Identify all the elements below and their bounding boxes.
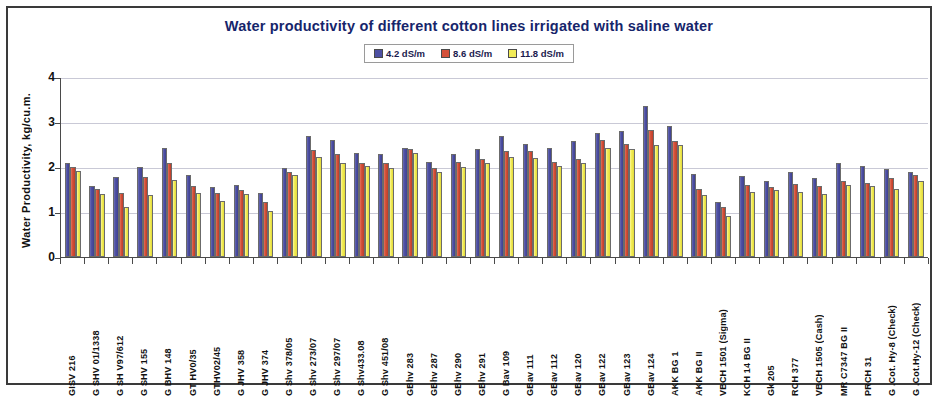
x-axis-label-text: GBav 120 [573, 266, 583, 396]
bar-group[interactable] [422, 78, 446, 257]
bar[interactable] [148, 195, 153, 257]
bar[interactable] [533, 158, 538, 257]
bar[interactable] [678, 145, 683, 257]
bar[interactable] [340, 163, 345, 258]
bar[interactable] [894, 189, 899, 257]
x-axis-label: GBhv 287 [422, 266, 446, 396]
bar[interactable] [798, 192, 803, 257]
bar-group[interactable] [856, 78, 880, 257]
bar[interactable] [702, 195, 707, 257]
x-axis-label: Gk 205 [759, 266, 783, 396]
bar-group[interactable] [543, 78, 567, 257]
bar-group[interactable] [711, 78, 735, 257]
bar[interactable] [268, 211, 273, 257]
bar-group[interactable] [663, 78, 687, 257]
bar[interactable] [750, 192, 755, 257]
bar[interactable] [124, 207, 129, 257]
bar-group[interactable] [157, 78, 181, 257]
bar-group[interactable] [591, 78, 615, 257]
bar-group[interactable] [350, 78, 374, 257]
y-tick [55, 213, 60, 214]
x-tick [132, 258, 133, 264]
y-tick [55, 78, 60, 79]
bar[interactable] [244, 194, 249, 257]
x-axis-label: GISV 216 [60, 266, 84, 396]
x-axis-label-text: GBav 111 [525, 266, 535, 396]
bar[interactable] [654, 145, 659, 257]
bar[interactable] [100, 194, 105, 257]
x-tick [277, 258, 278, 264]
bar[interactable] [389, 168, 394, 257]
bar-group[interactable] [446, 78, 470, 257]
bar[interactable] [172, 180, 177, 257]
bar[interactable] [413, 153, 418, 257]
bar-group[interactable] [687, 78, 711, 257]
x-axis-label-text: VBCH 1501 (Sigma) [718, 266, 728, 396]
bar-group[interactable] [783, 78, 807, 257]
bar[interactable] [846, 185, 851, 257]
x-tick [639, 258, 640, 264]
bar[interactable] [76, 171, 81, 257]
x-axis-label-text: AKK BG II [694, 266, 704, 396]
bar-group[interactable] [880, 78, 904, 257]
bar-group[interactable] [398, 78, 422, 257]
bar[interactable] [605, 148, 610, 257]
bar[interactable] [509, 157, 514, 257]
x-tick [590, 258, 591, 264]
legend-swatch-1 [441, 49, 450, 58]
bar-group[interactable] [85, 78, 109, 257]
bar-group[interactable] [518, 78, 542, 257]
bar-group[interactable] [326, 78, 350, 257]
bar-group[interactable] [278, 78, 302, 257]
x-axis-label-text: G Shv 378/05 [284, 266, 294, 396]
bar[interactable] [485, 163, 490, 257]
x-axis-label-text: G SHV 01/1338 [91, 266, 101, 396]
x-axis-label: G Bav 109 [494, 266, 518, 396]
bar[interactable] [822, 194, 827, 257]
bar-group[interactable] [567, 78, 591, 257]
x-axis-label: GBav 124 [639, 266, 663, 396]
bar-group[interactable] [302, 78, 326, 257]
bar[interactable] [726, 216, 731, 257]
bar-group[interactable] [470, 78, 494, 257]
bar[interactable] [292, 175, 297, 257]
x-axis-label-text: MR C7347 BG II [839, 266, 849, 396]
bar[interactable] [918, 181, 923, 257]
bar-group[interactable] [494, 78, 518, 257]
bar-group[interactable] [832, 78, 856, 257]
x-axis-label: G Shv 297/07 [325, 266, 349, 396]
bar[interactable] [581, 163, 586, 257]
x-axis-label-text: GBhv 290 [453, 266, 463, 396]
x-axis-label: G SH V97/612 [108, 266, 132, 396]
bar-group[interactable] [230, 78, 254, 257]
bar[interactable] [774, 190, 779, 257]
bar-group[interactable] [181, 78, 205, 257]
bar-group[interactable] [759, 78, 783, 257]
bar-group[interactable] [254, 78, 278, 257]
bar-group[interactable] [374, 78, 398, 257]
bar-group[interactable] [615, 78, 639, 257]
bar-group[interactable] [133, 78, 157, 257]
bar[interactable] [557, 166, 562, 257]
bar[interactable] [220, 201, 225, 257]
bar[interactable] [629, 149, 634, 257]
legend-label-2: 11.8 dS/m [520, 48, 564, 59]
bar-group[interactable] [109, 78, 133, 257]
bar-group[interactable] [735, 78, 759, 257]
legend-label-1: 8.6 dS/m [453, 48, 492, 59]
x-axis-label-text: GBhv 291 [477, 266, 487, 396]
bar[interactable] [870, 186, 875, 257]
bar[interactable] [196, 193, 201, 257]
bar[interactable] [316, 157, 321, 257]
x-axis-label-text: G JHV 358 [236, 266, 246, 396]
x-axis-label: GBav 123 [615, 266, 639, 396]
bar[interactable] [461, 167, 466, 257]
bar-group[interactable] [639, 78, 663, 257]
bar-group[interactable] [205, 78, 229, 257]
bar-group[interactable] [61, 78, 85, 257]
bar-group[interactable] [904, 78, 928, 257]
x-tick [422, 258, 423, 264]
bar[interactable] [437, 172, 442, 258]
bar[interactable] [365, 166, 370, 257]
bar-group[interactable] [807, 78, 831, 257]
